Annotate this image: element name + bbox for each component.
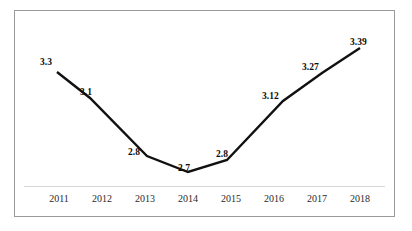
x-tick-label-2014: 2014 <box>172 194 204 204</box>
chart-frame-border <box>14 10 395 217</box>
data-label-2011: 3.3 <box>40 58 52 68</box>
data-label-2018: 3.39 <box>350 38 367 48</box>
x-tick-label-2015: 2015 <box>215 194 247 204</box>
data-label-2015: 2.8 <box>216 150 228 160</box>
x-tick-label-2011: 2011 <box>43 194 75 204</box>
chart-figure: 3.3 3.1 2.8 2.7 2.8 3.12 3.27 3.39 2011 … <box>0 0 412 231</box>
data-label-2016: 3.12 <box>262 92 279 102</box>
x-tick-label-2018: 2018 <box>344 194 376 204</box>
x-tick-label-2017: 2017 <box>301 194 333 204</box>
data-label-2013: 2.8 <box>128 148 140 158</box>
x-tick-label-2013: 2013 <box>129 194 161 204</box>
x-tick-label-2016: 2016 <box>258 194 290 204</box>
data-label-2017: 3.27 <box>302 63 319 73</box>
x-tick-label-2012: 2012 <box>86 194 118 204</box>
data-label-2014: 2.7 <box>178 164 190 174</box>
data-label-2012: 3.1 <box>80 88 92 98</box>
